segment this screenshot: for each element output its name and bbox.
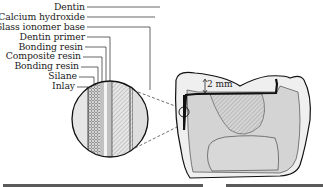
diagram-graphic xyxy=(0,0,323,187)
dimension-label: 2 mm xyxy=(207,79,233,89)
bottom-strip-left xyxy=(3,184,203,187)
pulp xyxy=(208,136,279,171)
leader-lines xyxy=(77,7,160,90)
bottom-strip-right xyxy=(226,184,323,187)
